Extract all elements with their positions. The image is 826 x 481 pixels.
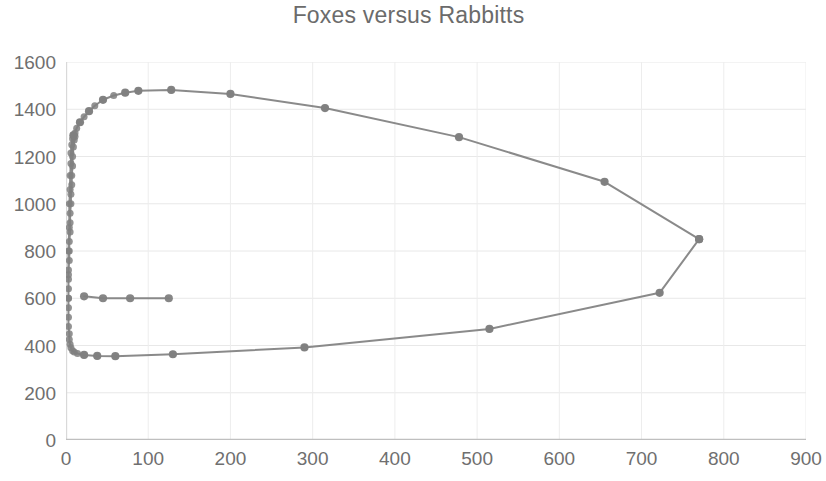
data-point [226, 90, 234, 98]
data-point [70, 144, 77, 151]
data-point [85, 107, 93, 115]
y-axis-tick-label: 0 [0, 431, 56, 450]
data-point [76, 118, 84, 126]
y-axis-tick-label: 1200 [0, 148, 56, 167]
data-point [91, 102, 98, 109]
data-point [66, 314, 72, 321]
data-point [66, 323, 72, 330]
x-axis-tick-label: 500 [442, 449, 512, 468]
data-point [300, 343, 308, 351]
data-point [99, 294, 107, 302]
x-axis-tick-label: 400 [360, 449, 430, 468]
data-point [68, 172, 75, 179]
series-line [68, 90, 699, 356]
data-point [93, 352, 101, 360]
y-axis-tick-label: 800 [0, 242, 56, 261]
data-point [66, 238, 73, 245]
gridlines [66, 62, 806, 440]
data-point [485, 325, 493, 333]
data-point [321, 104, 329, 112]
data-point [134, 87, 142, 95]
y-axis-tick-label: 400 [0, 337, 56, 356]
x-axis-tick-label: 600 [524, 449, 594, 468]
data-point [110, 92, 117, 99]
data-point [69, 162, 76, 169]
data-point [66, 257, 73, 264]
data-point [455, 133, 463, 141]
y-axis-tick-label: 1400 [0, 100, 56, 119]
x-axis-tick-label: 800 [689, 449, 759, 468]
data-point [126, 294, 134, 302]
x-axis-tick-label: 0 [31, 449, 101, 468]
y-axis-tick-label: 600 [0, 289, 56, 308]
data-point [80, 351, 88, 359]
data-point [66, 304, 72, 311]
data-point [695, 235, 703, 243]
data-point [69, 153, 76, 160]
chart-title: Foxes versus Rabbitts [0, 2, 817, 29]
data-point [69, 131, 77, 139]
data-point [656, 289, 664, 297]
y-axis-tick-label: 200 [0, 384, 56, 403]
data-point [169, 350, 177, 358]
scatter-plot-svg [66, 62, 806, 440]
data-point [121, 89, 129, 97]
data-point [111, 352, 119, 360]
data-point [600, 178, 608, 186]
data-point [68, 181, 75, 188]
x-axis-tick-label: 300 [278, 449, 348, 468]
data-point [67, 219, 74, 226]
data-point [66, 295, 72, 302]
x-axis-tick-label: 900 [771, 449, 826, 468]
data-point [99, 96, 107, 104]
data-point [67, 191, 74, 198]
data-point [80, 292, 88, 300]
plot-area [66, 62, 806, 440]
data-point [66, 285, 72, 292]
data-point [67, 229, 74, 236]
data-series [66, 86, 703, 360]
x-axis-tick-label: 200 [195, 449, 265, 468]
data-point [66, 330, 73, 337]
x-axis-tick-label: 700 [607, 449, 677, 468]
data-point [165, 294, 173, 302]
data-point [67, 210, 74, 217]
data-point [66, 248, 73, 255]
x-axis-tick-label: 100 [113, 449, 183, 468]
data-point [67, 200, 74, 207]
data-point [167, 86, 175, 94]
y-axis-tick-label: 1600 [0, 53, 56, 72]
y-axis-tick-label: 1000 [0, 195, 56, 214]
